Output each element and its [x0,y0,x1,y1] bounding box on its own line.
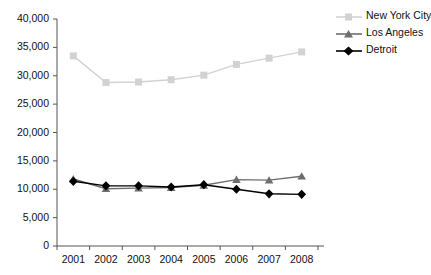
y-axis-tick-label: 30,000 [5,69,49,81]
data-point-marker [232,185,241,194]
legend-swatch-square [336,9,362,21]
y-axis-tick-label: 5,000 [5,211,49,223]
series-los-angeles [69,172,306,192]
data-point-marker [297,190,306,199]
y-axis-tick-label: 0 [5,239,49,251]
legend-label-los-angeles: Los Angeles [366,26,423,38]
data-point-marker [134,181,143,190]
y-axis-tick-label: 35,000 [5,40,49,52]
y-axis-tick-label: 25,000 [5,97,49,109]
x-axis-tick-label: 2007 [252,253,286,265]
data-point-marker [102,79,109,86]
legend-swatch-triangle [336,26,362,38]
x-axis-tick-label: 2003 [122,253,156,265]
data-point-marker [69,177,78,186]
data-point-marker [200,72,207,79]
y-axis-tick-label: 10,000 [5,182,49,194]
legend-label-new-york-city: New York City [366,9,431,21]
series-new-york-city [70,48,305,86]
chart-legend: New York City Los Angeles Detroit [336,8,431,56]
x-axis-tick-label: 2004 [154,253,188,265]
y-axis-tick-label: 40,000 [5,12,49,24]
x-axis-tick-label: 2006 [219,253,253,265]
legend-swatch-diamond [336,43,362,55]
x-axis-tick-label: 2008 [285,253,319,265]
x-axis-tick-label: 2002 [89,253,123,265]
data-point-marker [70,52,77,59]
data-point-marker [298,48,305,55]
y-axis-tick-label: 15,000 [5,154,49,166]
data-point-marker [265,189,274,198]
x-axis-tick-label: 2005 [187,253,221,265]
legend-label-detroit: Detroit [366,43,397,55]
y-axis-tick-label: 20,000 [5,126,49,138]
legend-item-new-york-city[interactable]: New York City [336,8,431,22]
data-point-marker [233,61,240,68]
data-point-marker [266,55,273,62]
data-point-marker [168,76,175,83]
data-point-marker [135,78,142,85]
legend-item-detroit[interactable]: Detroit [336,42,431,56]
x-axis-tick-label: 2001 [56,253,90,265]
legend-item-los-angeles[interactable]: Los Angeles [336,25,431,39]
